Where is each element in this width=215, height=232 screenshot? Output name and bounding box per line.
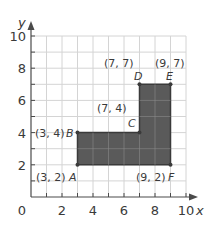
point-A-name: A [68,171,77,184]
point-A-coord: (3, 2) [36,171,66,184]
origin-label: 0 [18,203,26,218]
point-D-name: D [134,70,142,83]
x-tick-6: 6 [120,203,128,218]
x-tick-2: 2 [58,203,66,218]
point-D-coord: (7, 7) [104,57,134,70]
x-tick-10: 10 [178,203,195,218]
y-tick-6: 6 [18,93,26,108]
point-B-name: B [66,127,74,140]
x-axis-arrow-icon [189,194,198,201]
y-tick-10: 10 [9,29,26,44]
point-E-name: E [166,70,173,83]
x-axis-label: x [195,203,204,218]
y-axis-arrow-icon [28,21,35,30]
point-C-name: C [128,117,136,130]
point-C-coord: (7, 4) [97,102,127,115]
y-tick-2: 2 [18,158,26,173]
x-tick-8: 8 [151,203,159,218]
x-tick-4: 4 [89,203,97,218]
y-axis-label: y [17,15,26,30]
y-tick-8: 8 [18,61,26,76]
point-E-coord: (9, 7) [155,57,185,70]
point-F-coord: (9, 2) [136,171,166,184]
point-F-name: F [168,171,175,184]
point-B-coord: (3, 4) [35,127,65,140]
y-tick-4: 4 [18,126,26,141]
coordinate-diagram: 0 2 4 6 8 10 x 2 4 6 8 10 y (3, 2) A (3,… [0,0,215,232]
